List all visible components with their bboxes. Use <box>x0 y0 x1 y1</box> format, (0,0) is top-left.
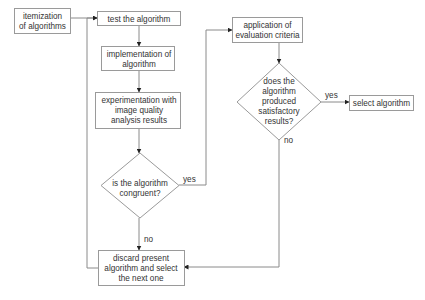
node-test-line-1: test the algorithm <box>108 15 171 24</box>
node-discard-line-3: the next one <box>118 274 164 283</box>
edge-discard-to-test <box>87 18 98 268</box>
node-discard-line-1: discard present <box>113 254 170 263</box>
node-experimentation-line-3: analysis results <box>111 116 167 125</box>
node-satisfactory-line-5: results? <box>265 117 294 126</box>
edge-label-congruent-no: no <box>144 235 154 244</box>
node-congruent-line-2: congruent? <box>120 189 161 198</box>
node-select: select algorithm <box>350 96 414 111</box>
node-itemization: itemization of algorithms <box>15 9 71 34</box>
edge-congruent-to-application <box>179 30 232 185</box>
node-application-line-2: evaluation criteria <box>235 31 300 40</box>
edge-label-satisfactory-yes: yes <box>325 91 338 100</box>
node-experimentation-line-2: image quality <box>115 106 164 115</box>
node-satisfactory-line-3: produced <box>262 97 297 106</box>
node-itemization-line-2: of algorithms <box>19 22 66 31</box>
edge-satisfactory-to-discard <box>184 140 279 267</box>
node-satisfactory-line-4: satisfactory <box>258 107 300 116</box>
node-select-line-1: select algorithm <box>353 99 411 108</box>
node-congruent-line-1: is the algorithm <box>112 179 168 188</box>
node-satisfactory-decision: does the algorithm produced satisfactory… <box>237 63 321 140</box>
edge-label-congruent-yes: yes <box>183 175 196 184</box>
flowchart: yes no yes no itemization of algorithms … <box>0 0 425 300</box>
node-discard-line-2: algorithm and select <box>104 264 178 273</box>
node-discard: discard present algorithm and select the… <box>99 251 185 286</box>
node-application: application of evaluation criteria <box>233 18 303 43</box>
node-satisfactory-line-2: algorithm <box>262 87 296 96</box>
node-congruent-decision: is the algorithm congruent? <box>101 153 179 218</box>
node-implementation: implementation of algorithm <box>102 47 175 71</box>
node-implementation-line-2: algorithm <box>122 60 156 69</box>
node-experimentation-line-1: experimentation with <box>101 96 177 105</box>
node-itemization-line-1: itemization <box>23 12 63 21</box>
edge-label-satisfactory-no: no <box>284 136 294 145</box>
node-experimentation: experimentation with image quality analy… <box>96 93 181 129</box>
node-test: test the algorithm <box>98 12 181 26</box>
node-satisfactory-line-1: does the <box>263 77 295 86</box>
node-implementation-line-1: implementation of <box>107 50 172 59</box>
node-application-line-1: application of <box>243 21 292 30</box>
